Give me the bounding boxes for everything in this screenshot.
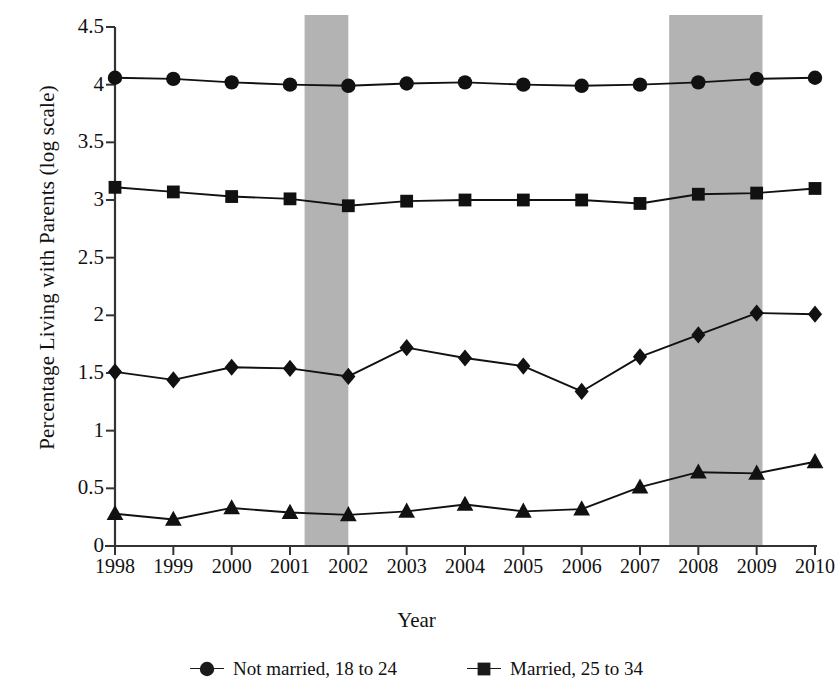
y-tick-label: 0.5 bbox=[44, 477, 104, 498]
plot-area bbox=[115, 27, 815, 546]
y-tick-label: 2 bbox=[44, 304, 104, 325]
data-point[interactable] bbox=[807, 453, 824, 468]
data-point[interactable] bbox=[166, 72, 180, 86]
legend-square-icon bbox=[467, 662, 501, 676]
data-point[interactable] bbox=[283, 77, 297, 91]
data-point[interactable] bbox=[166, 371, 180, 388]
y-tick-label: 4 bbox=[44, 74, 104, 95]
legend-label: Not married, 18 to 24 bbox=[233, 658, 397, 680]
data-point[interactable] bbox=[517, 194, 530, 207]
data-point[interactable] bbox=[107, 505, 124, 520]
data-point[interactable] bbox=[341, 79, 355, 93]
legend-entry[interactable]: Married, 25 to 34 bbox=[467, 658, 643, 680]
data-point[interactable] bbox=[457, 496, 474, 511]
data-point[interactable] bbox=[575, 383, 589, 400]
data-point[interactable] bbox=[225, 359, 239, 376]
plot-svg bbox=[115, 27, 815, 546]
y-tick-label: 1.5 bbox=[44, 362, 104, 383]
legend-label: Married, 25 to 34 bbox=[510, 658, 643, 680]
data-point[interactable] bbox=[516, 77, 530, 91]
data-point[interactable] bbox=[808, 71, 822, 85]
y-tick-label: 0 bbox=[44, 535, 104, 556]
y-tick-label: 2.5 bbox=[44, 247, 104, 268]
data-point[interactable] bbox=[399, 76, 413, 90]
data-point[interactable] bbox=[692, 188, 705, 201]
data-point-circle[interactable] bbox=[200, 662, 214, 676]
data-point[interactable] bbox=[633, 348, 647, 365]
data-point[interactable] bbox=[223, 499, 240, 514]
data-point[interactable] bbox=[400, 339, 414, 356]
data-point[interactable] bbox=[516, 357, 530, 374]
data-point[interactable] bbox=[283, 360, 297, 377]
chart-legend: Not married, 18 to 24Married, 25 to 34 bbox=[0, 658, 833, 680]
data-point[interactable] bbox=[167, 186, 180, 199]
data-point[interactable] bbox=[809, 182, 822, 195]
data-point[interactable] bbox=[691, 75, 705, 89]
data-point[interactable] bbox=[108, 363, 122, 380]
y-tick-label: 1 bbox=[44, 420, 104, 441]
data-point[interactable] bbox=[225, 190, 238, 203]
data-point[interactable] bbox=[458, 349, 472, 366]
data-point[interactable] bbox=[458, 75, 472, 89]
recession-band-2001 bbox=[305, 15, 349, 546]
legend-marker bbox=[197, 659, 217, 679]
legend-entry[interactable]: Not married, 18 to 24 bbox=[190, 658, 397, 680]
data-point[interactable] bbox=[750, 187, 763, 200]
data-point[interactable] bbox=[808, 306, 822, 323]
data-point[interactable] bbox=[342, 199, 355, 212]
data-point[interactable] bbox=[459, 194, 472, 207]
legend-circle-icon bbox=[190, 662, 224, 676]
data-point[interactable] bbox=[400, 195, 413, 208]
recession-band-2008 bbox=[669, 15, 762, 546]
data-point[interactable] bbox=[749, 72, 763, 86]
data-point-square[interactable] bbox=[478, 663, 491, 676]
data-point[interactable] bbox=[108, 71, 122, 85]
data-point[interactable] bbox=[574, 79, 588, 93]
data-point[interactable] bbox=[575, 194, 588, 207]
y-tick-label: 3.5 bbox=[44, 131, 104, 152]
data-point[interactable] bbox=[633, 77, 647, 91]
data-point[interactable] bbox=[284, 192, 297, 205]
y-tick-label: 3 bbox=[44, 189, 104, 210]
data-point[interactable] bbox=[224, 75, 238, 89]
x-tick-label: 2010 bbox=[780, 556, 839, 576]
data-point[interactable] bbox=[634, 197, 647, 210]
x-axis-title: Year bbox=[0, 608, 833, 633]
legend-marker bbox=[474, 659, 494, 679]
data-point[interactable] bbox=[109, 181, 122, 194]
y-tick-label: 4.5 bbox=[44, 16, 104, 37]
